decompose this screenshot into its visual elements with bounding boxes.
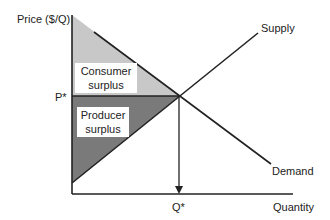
consumer-surplus-line1: Consumer xyxy=(77,64,135,78)
supply-label: Supply xyxy=(261,23,295,34)
consumer-surplus-line2: surplus xyxy=(77,78,135,92)
price-equilibrium-label: P* xyxy=(55,92,67,103)
demand-label: Demand xyxy=(272,166,314,177)
producer-surplus-line1: Producer xyxy=(79,108,127,122)
arrow-down-icon xyxy=(175,186,183,194)
x-axis-label: Quantity xyxy=(273,202,314,213)
quantity-equilibrium-label: Q* xyxy=(172,202,185,213)
producer-surplus-line2: surplus xyxy=(79,122,127,136)
consumer-surplus-label: Consumer surplus xyxy=(75,63,137,93)
y-axis-label: Price ($/Q) xyxy=(17,14,70,25)
producer-surplus-label: Producer surplus xyxy=(77,107,129,137)
